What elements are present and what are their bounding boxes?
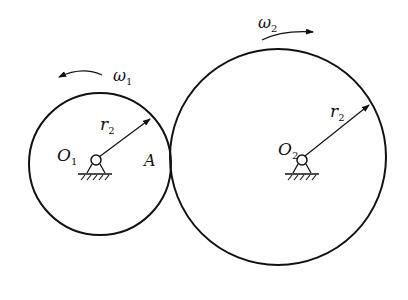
center-o2-label: O2	[278, 139, 298, 161]
radius-1-label: r2	[100, 114, 115, 136]
omega-1-label: ω1	[113, 66, 132, 87]
center-o1-label: O1	[57, 145, 77, 167]
contact-point-a-label: A	[142, 151, 156, 170]
rotation-arrow-2	[262, 32, 313, 40]
rotation-arrow-1	[59, 71, 102, 77]
radius-2-label: r2	[330, 101, 345, 123]
omega-2-label: ω2	[258, 13, 277, 34]
pivot-support-icon	[78, 155, 112, 180]
gear-diagram: ω1 ω2 r2 r2 O1 O2 A	[0, 0, 408, 300]
